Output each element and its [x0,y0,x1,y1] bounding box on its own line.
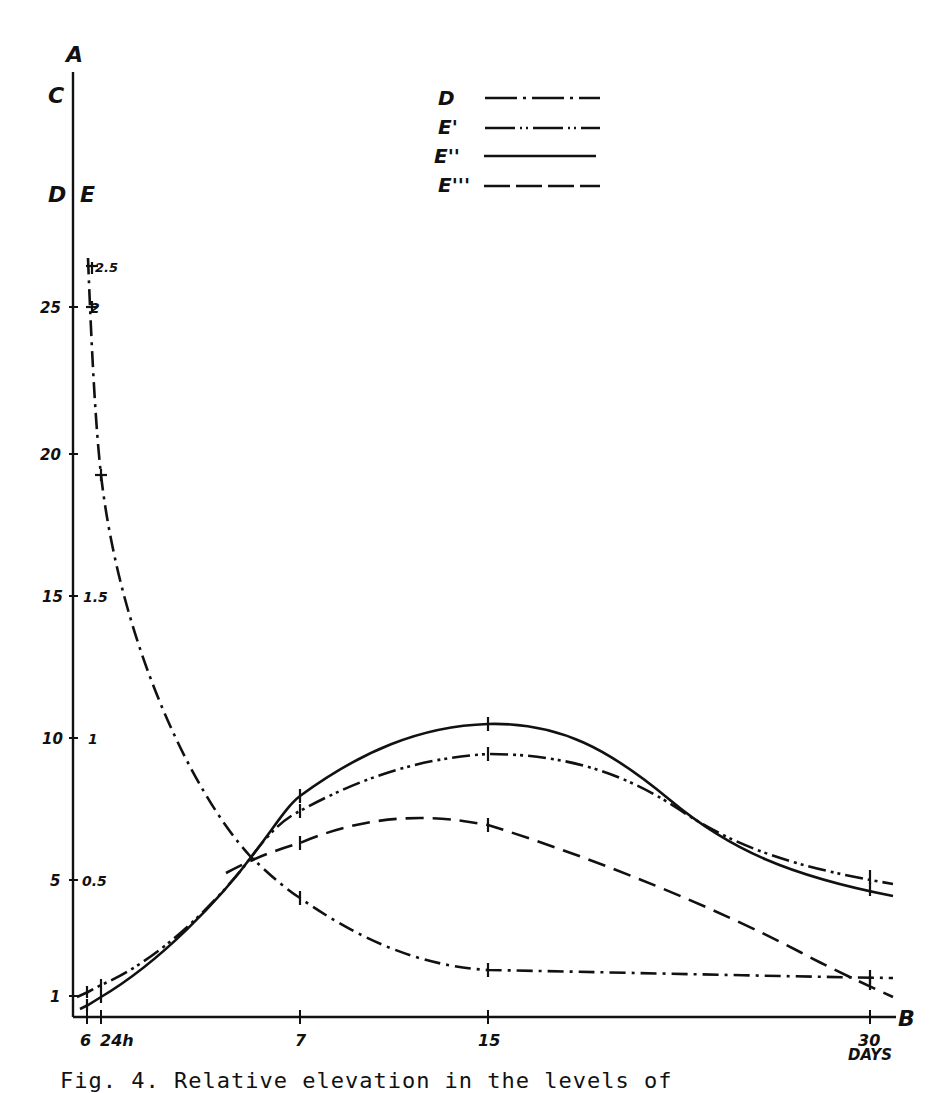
svg-text:E''': E''' [438,173,470,197]
svg-text:6: 6 [80,1031,91,1050]
svg-text:30: 30 [858,1031,880,1050]
series-e-prime-curve [77,754,893,997]
svg-text:5: 5 [50,872,60,890]
right-scale-ticks: 2.5 2 1.5 1 0.5 [82,260,118,889]
svg-text:E': E' [438,115,458,139]
svg-text:10: 10 [42,730,63,748]
svg-text:1: 1 [50,988,60,1006]
legend-item-e-triple-prime: E''' [438,173,600,197]
x-axis-label-b: B [898,1006,915,1031]
series-e-double-prime-curve [80,724,893,1009]
svg-text:15: 15 [478,1031,500,1050]
y-axis-label-a: A [64,42,83,67]
scale-label-e: E [80,182,95,207]
legend-item-e-double-prime: E'' [434,144,596,168]
scale-label-d: D [48,182,66,207]
left-scale-label-c: C [48,83,64,108]
svg-text:15: 15 [42,588,63,606]
svg-text:D: D [438,86,455,110]
legend: D E' E'' E''' [434,86,600,197]
svg-text:24h: 24h [100,1031,134,1050]
svg-text:20: 20 [40,446,61,464]
data-point-markers [86,262,870,1011]
legend-item-e-prime: E' [438,115,600,139]
svg-text:25: 25 [40,299,61,317]
svg-text:E'': E'' [434,144,460,168]
svg-text:1.5: 1.5 [83,589,108,605]
svg-text:7: 7 [295,1031,307,1050]
series-d-curve [88,258,893,978]
svg-text:0.5: 0.5 [82,873,107,889]
legend-item-d: D [438,86,600,110]
svg-text:1: 1 [88,731,98,747]
figure-caption: Fig. 4. Relative elevation in the levels… [60,1068,673,1093]
svg-text:2.5: 2.5 [95,260,118,275]
